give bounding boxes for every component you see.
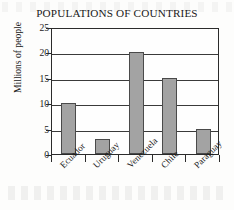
x-axis-tick-mark (185, 155, 186, 162)
bar (129, 52, 144, 154)
page-title: POPULATIONS OF COUNTRIES (0, 7, 234, 19)
plot-area (51, 28, 219, 155)
page-bleed-bottom (8, 186, 226, 200)
x-axis-tick-mark (85, 155, 86, 162)
x-axis-tick-mark (118, 155, 119, 162)
y-axis-title: Millions of people (12, 3, 23, 113)
x-axis-tick-mark (152, 155, 153, 162)
x-axis-tick-mark (51, 155, 52, 162)
x-axis-tick-mark (219, 155, 220, 162)
bar (162, 78, 177, 154)
chart-screenshot: POPULATIONS OF COUNTRIES Millions of peo… (0, 0, 234, 210)
